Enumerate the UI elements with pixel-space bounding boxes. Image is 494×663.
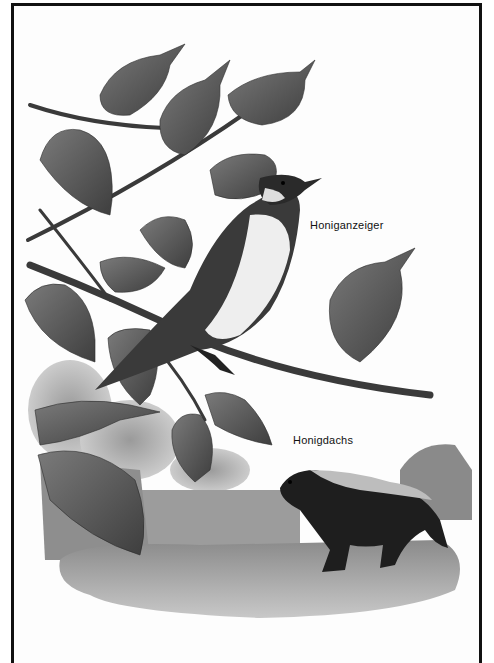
caption-honigdachs: Honigdachs [293, 434, 353, 446]
caption-honiganzeiger: Honiganzeiger [310, 219, 384, 231]
